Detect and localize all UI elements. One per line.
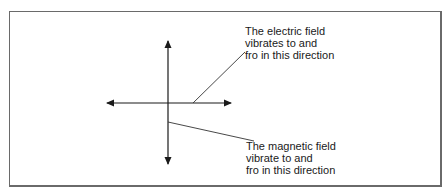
electric-field-label: The electric field vibrates to and fro i… bbox=[245, 25, 334, 61]
electric-field-label-line-1: The electric field bbox=[245, 25, 334, 37]
magnetic-field-label-line-3: fro in this direction bbox=[246, 164, 336, 176]
wave-diagram bbox=[0, 0, 447, 194]
electric-field-leader-line bbox=[193, 52, 245, 103]
electric-field-label-line-3: fro in this direction bbox=[245, 49, 334, 61]
magnetic-field-label-line-1: The magnetic field bbox=[246, 140, 336, 152]
electric-field-label-line-2: vibrates to and bbox=[245, 37, 334, 49]
magnetic-field-label: The magnetic field vibrate to and fro in… bbox=[246, 140, 336, 176]
magnetic-field-leader-line bbox=[168, 122, 254, 141]
magnetic-field-label-line-2: vibrate to and bbox=[246, 152, 336, 164]
